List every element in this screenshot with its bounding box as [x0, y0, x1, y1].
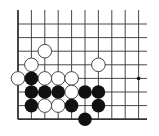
black-stone-icon	[78, 112, 92, 126]
black-stone-icon	[25, 72, 39, 86]
white-stone-icon	[65, 85, 79, 99]
white-stone-icon	[38, 44, 52, 58]
black-stone-icon	[25, 99, 39, 113]
black-stone-icon	[38, 85, 52, 99]
black-stone-icon	[65, 99, 79, 113]
white-stone-icon	[11, 72, 25, 86]
white-stone-icon	[92, 58, 106, 72]
white-stone-icon	[65, 72, 79, 86]
star-point-icon	[137, 77, 141, 81]
black-stone-icon	[92, 99, 106, 113]
black-stone-icon	[92, 85, 106, 99]
white-stone-icon	[25, 58, 39, 72]
black-stone-icon	[51, 85, 65, 99]
black-stone-icon	[78, 85, 92, 99]
star-points	[137, 77, 141, 81]
go-board	[0, 0, 159, 136]
white-stone-icon	[51, 99, 65, 113]
white-stone-icon	[38, 72, 52, 86]
white-stone-icon	[38, 99, 52, 113]
white-stone-icon	[51, 72, 65, 86]
black-stone-icon	[25, 85, 39, 99]
